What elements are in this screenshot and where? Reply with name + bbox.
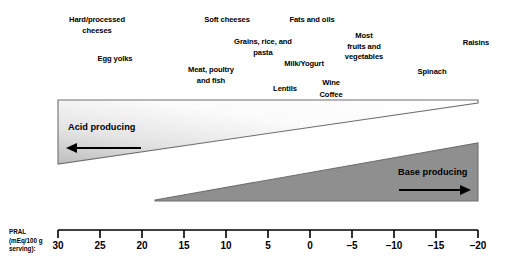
axis-tick-label-neg10: –10	[386, 240, 403, 251]
axis-tick-label-neg15: –15	[428, 240, 445, 251]
axis-tick-label-10: 10	[220, 240, 231, 251]
axis-tick-label-15: 15	[178, 240, 189, 251]
axis-tick-label-20: 20	[136, 240, 147, 251]
axis-tick-label-5: 5	[265, 240, 271, 251]
axis-tick-label-25: 25	[94, 240, 105, 251]
pral-axis	[0, 0, 512, 268]
axis-tick-label-0: 0	[307, 240, 313, 251]
axis-tick-label-neg5: –5	[346, 240, 357, 251]
axis-tick-label-30: 30	[52, 240, 63, 251]
pral-scale-diagram: Hard/processed cheesesEgg yolksSoft chee…	[0, 0, 512, 268]
axis-tick-label-neg20: –20	[470, 240, 487, 251]
